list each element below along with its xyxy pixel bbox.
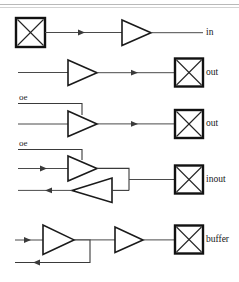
label-out-plain: out [206, 67, 219, 77]
label-inout: inout [206, 174, 226, 184]
page-rule-top [0, 5, 239, 8]
row-out: out [18, 59, 219, 87]
gate-buffer-out[interactable] [68, 60, 97, 86]
pad-out-tristate[interactable] [175, 110, 203, 138]
label-out-tristate: out [206, 118, 219, 128]
wire-out-to-pad [97, 70, 175, 76]
wire-in-pad-to-buffer [45, 30, 122, 36]
gate-buffer-in[interactable] [122, 20, 151, 46]
gate-buffer-first[interactable] [43, 225, 74, 255]
circuit-diagram-canvas: in out oe [0, 0, 239, 282]
label-in: in [206, 27, 214, 37]
gate-buffer-second[interactable] [115, 227, 143, 253]
pad-out[interactable] [175, 59, 203, 87]
label-oe-lower: oe [19, 138, 28, 148]
pad-buffer[interactable] [175, 226, 203, 254]
row-inout: oe [18, 138, 226, 202]
wire-inout-data-in [18, 166, 68, 172]
gate-input-buffer-inout[interactable] [72, 178, 112, 203]
pad-inout[interactable] [175, 166, 203, 194]
wire-out-tristate-to-pad [97, 121, 175, 127]
row-in: in [16, 18, 214, 47]
pad-in[interactable] [16, 18, 45, 47]
label-oe-upper: oe [19, 92, 28, 102]
wire-buffer-input [15, 237, 43, 243]
row-buffer: buffer [15, 225, 230, 265]
label-buffer: buffer [206, 234, 230, 244]
row-out-tristate: oe out [18, 92, 219, 138]
circuit-figure: in out oe [0, 0, 239, 282]
wire-inout-data-out [18, 188, 72, 194]
